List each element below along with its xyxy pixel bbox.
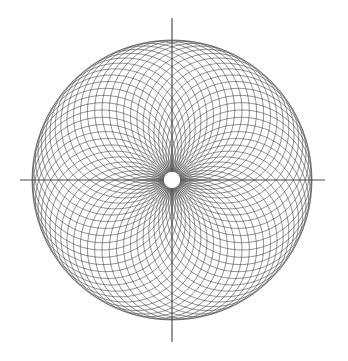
rosette-figure [0, 0, 348, 361]
figure-canvas [0, 0, 348, 361]
center-hole [164, 172, 180, 188]
